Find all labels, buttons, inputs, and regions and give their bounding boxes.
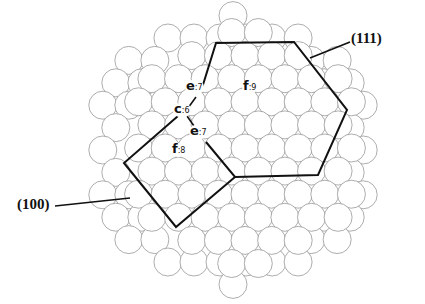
atom-sphere — [115, 226, 143, 254]
atom-sphere — [218, 250, 246, 278]
facet-label-111: (111) — [351, 30, 382, 47]
atom-label-edge-7a: e:7 — [185, 80, 204, 94]
facet-label-100: (100) — [17, 196, 50, 213]
atom-sphere — [138, 203, 166, 231]
atom-sphere — [154, 248, 182, 276]
atom-label-face-8: f:8 — [171, 143, 186, 157]
nanoparticle-diagram: (111) (100) e:7 f:9 c:6 e:7 f:8 — [0, 0, 425, 304]
atom-sphere — [284, 226, 312, 254]
atom-sphere — [244, 250, 272, 278]
atom-sphere — [178, 226, 206, 254]
atom-label-face-9: f:9 — [242, 80, 257, 94]
atom-label-corner-6: c:6 — [173, 103, 191, 117]
atom-label-edge-7b: e:7 — [189, 125, 208, 139]
atom-sphere — [324, 203, 352, 231]
